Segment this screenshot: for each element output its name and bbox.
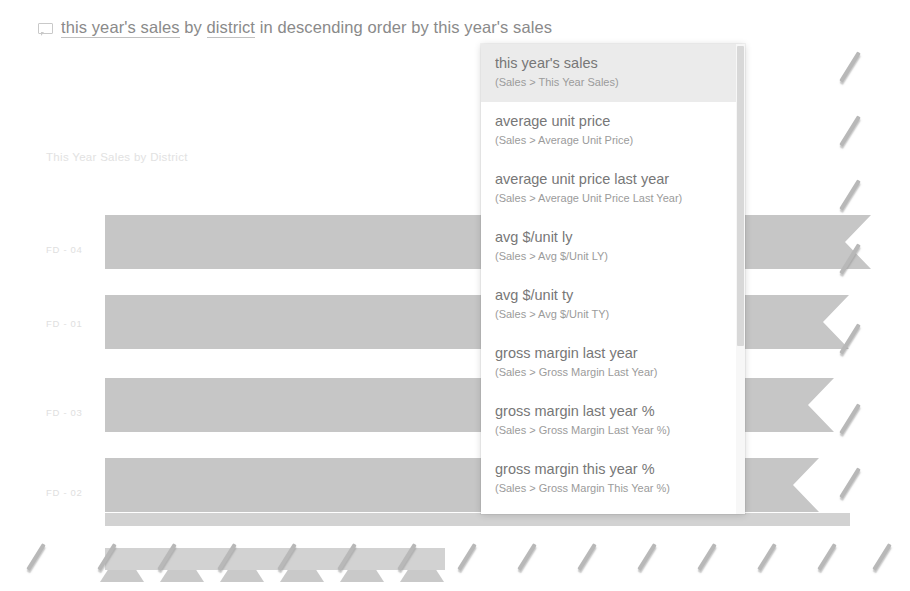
suggestion-item[interactable]: avg $/unit ly (Sales > Avg $/Unit LY) xyxy=(481,218,745,276)
suggestion-qualifier: (Sales > This Year Sales) xyxy=(495,74,731,91)
suggestion-item[interactable]: gross margin last year (Sales > Gross Ma… xyxy=(481,334,745,392)
query-token-measure[interactable]: this year's sales xyxy=(61,18,180,38)
qna-query-bar[interactable]: this year's sales by district in descend… xyxy=(38,18,552,37)
axis-tick-mark xyxy=(839,180,860,211)
suggestion-qualifier: (Sales > Avg $/Unit TY) xyxy=(495,306,731,323)
axis-tick-mark xyxy=(839,52,860,83)
bar-notch xyxy=(793,458,819,512)
suggestion-item[interactable]: avg $/unit ty (Sales > Avg $/Unit TY) xyxy=(481,276,745,334)
suggestion-title: gross margin last year xyxy=(495,344,731,363)
axis-tick-mark xyxy=(457,543,476,571)
suggestion-title: this year's sales xyxy=(495,54,731,73)
suggestion-dropdown[interactable]: this year's sales (Sales > This Year Sal… xyxy=(481,44,745,514)
axis-tick-mark xyxy=(697,543,716,571)
axis-tick-mark xyxy=(817,543,836,571)
suggestion-qualifier: (Sales > Gross Margin This Year %) xyxy=(495,480,731,497)
suggestion-qualifier: (Sales > Average Unit Price Last Year) xyxy=(495,190,731,207)
axis-tick-mark xyxy=(839,324,860,355)
suggestion-title: average unit price xyxy=(495,112,731,131)
suggestion-qualifier: (Sales > Avg $/Unit LY) xyxy=(495,248,731,265)
axis-tick-mark xyxy=(839,468,860,499)
suggestion-qualifier: (Sales > Average Unit Price) xyxy=(495,132,731,149)
suggestion-title: avg $/unit ty xyxy=(495,286,731,305)
qna-canvas: This Year Sales by District FD - 04 FD -… xyxy=(0,0,910,591)
bar-chart: This Year Sales by District FD - 04 FD -… xyxy=(0,0,910,591)
suggestion-title: gross margin this year % xyxy=(495,460,731,479)
chart-category-label: FD - 02 xyxy=(46,487,83,498)
query-token-plain: in descending order by this year's sales xyxy=(255,18,552,36)
chat-bubble-icon xyxy=(38,23,53,35)
query-token-plain: by xyxy=(180,18,207,36)
suggestion-item[interactable]: average unit price (Sales > Average Unit… xyxy=(481,102,745,160)
dropdown-scrollbar[interactable] xyxy=(736,44,745,514)
axis-strip xyxy=(105,513,850,526)
suggestion-title: average unit price last year xyxy=(495,170,731,189)
chart-category-label: FD - 03 xyxy=(46,407,83,418)
axis-tick-mark xyxy=(577,543,596,571)
dropdown-scrollbar-thumb[interactable] xyxy=(737,46,744,346)
axis-tick-mark xyxy=(839,404,860,435)
chart-category-label: FD - 01 xyxy=(46,318,83,329)
chart-title: This Year Sales by District xyxy=(46,151,188,163)
chart-category-label: FD - 04 xyxy=(46,244,83,255)
suggestion-qualifier: (Sales > Gross Margin Last Year %) xyxy=(495,422,731,439)
suggestion-item[interactable]: gross margin last year % (Sales > Gross … xyxy=(481,392,745,450)
axis-tick-mark xyxy=(637,543,656,571)
suggestion-item[interactable]: this year's sales (Sales > This Year Sal… xyxy=(481,44,745,102)
query-input[interactable]: this year's sales by district in descend… xyxy=(61,18,552,37)
suggestion-qualifier: (Sales > Gross Margin Last Year) xyxy=(495,364,731,381)
suggestion-item[interactable]: gross margin this year % (Sales > Gross … xyxy=(481,450,745,508)
suggestion-item[interactable]: average unit price last year (Sales > Av… xyxy=(481,160,745,218)
query-token-dimension[interactable]: district xyxy=(207,18,255,38)
axis-tick-mark xyxy=(26,543,45,571)
suggestion-title: avg $/unit ly xyxy=(495,228,731,247)
axis-tick-mark xyxy=(872,543,891,571)
axis-tick-mark xyxy=(517,543,536,571)
axis-tick-mark xyxy=(757,543,776,571)
suggestion-title: gross margin last year % xyxy=(495,402,731,421)
axis-tick-mark xyxy=(839,116,860,147)
axis-strip-lower xyxy=(105,548,445,570)
bar-notch xyxy=(808,378,834,432)
